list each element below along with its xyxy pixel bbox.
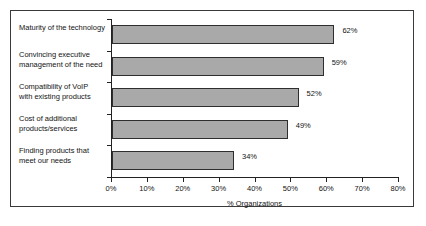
value-tick-label: 60% bbox=[319, 184, 334, 193]
category-label: Maturity of the technology bbox=[19, 23, 111, 33]
bar-value-label: 62% bbox=[342, 26, 357, 35]
value-tick bbox=[326, 177, 327, 182]
category-label-line: Finding products that bbox=[19, 146, 111, 156]
category-tick bbox=[107, 51, 112, 52]
bar-row: 49% bbox=[111, 114, 398, 146]
value-tick bbox=[290, 177, 291, 182]
bar-value-label: 59% bbox=[332, 58, 347, 67]
value-axis-title: % Organizations bbox=[111, 199, 398, 208]
bar-row: 34% bbox=[111, 145, 398, 177]
page-caption bbox=[12, 214, 312, 219]
category-tick bbox=[107, 19, 112, 20]
bar-value-label: 34% bbox=[242, 152, 257, 161]
bar[interactable] bbox=[112, 151, 234, 170]
bar-value-label: 52% bbox=[307, 89, 322, 98]
category-tick bbox=[107, 145, 112, 146]
value-tick-label: 70% bbox=[355, 184, 370, 193]
category-label: Convincing executive management of the n… bbox=[19, 50, 111, 69]
bar[interactable] bbox=[112, 57, 324, 76]
category-tick bbox=[107, 114, 112, 115]
value-tick-label: 40% bbox=[247, 184, 262, 193]
category-label-line: management of the need bbox=[19, 60, 111, 70]
bar-row: 62% bbox=[111, 19, 398, 51]
bar[interactable] bbox=[112, 120, 288, 139]
value-tick-label: 20% bbox=[175, 184, 190, 193]
category-label-line: Compatibility of VoIP bbox=[19, 82, 111, 92]
value-tick-label: 50% bbox=[283, 184, 298, 193]
plot-area: 62%59%52%49%34% 0%10%20%30%40%50%60%70%8… bbox=[111, 19, 398, 184]
value-tick bbox=[183, 177, 184, 182]
value-tick-label: 30% bbox=[211, 184, 226, 193]
category-tick bbox=[107, 177, 112, 178]
value-tick bbox=[255, 177, 256, 182]
bar-value-label: 49% bbox=[296, 121, 311, 130]
category-label: Finding products that meet our needs bbox=[19, 146, 111, 165]
bar-row: 52% bbox=[111, 82, 398, 114]
category-label-line: Cost of additional bbox=[19, 114, 111, 124]
value-tick-label: 0% bbox=[106, 184, 117, 193]
value-tick-label: 10% bbox=[139, 184, 154, 193]
value-tick bbox=[398, 177, 399, 182]
value-tick bbox=[147, 177, 148, 182]
bar[interactable] bbox=[112, 25, 334, 44]
category-label-line: meet our needs bbox=[19, 156, 111, 166]
category-axis-labels: Maturity of the technology Convincing ex… bbox=[19, 19, 111, 177]
bar[interactable] bbox=[112, 88, 299, 107]
category-label: Compatibility of VoIP with existing prod… bbox=[19, 82, 111, 101]
value-tick-label: 80% bbox=[390, 184, 405, 193]
category-label: Cost of additional products/services bbox=[19, 114, 111, 133]
category-label-line: Convincing executive bbox=[19, 50, 111, 60]
chart-frame: Maturity of the technology Convincing ex… bbox=[10, 10, 414, 207]
category-label-line: with existing products bbox=[19, 92, 111, 102]
value-tick bbox=[362, 177, 363, 182]
value-tick bbox=[219, 177, 220, 182]
bar-row: 59% bbox=[111, 51, 398, 83]
category-label-line: Maturity of the technology bbox=[19, 23, 111, 33]
category-tick bbox=[107, 82, 112, 83]
category-label-line: products/services bbox=[19, 124, 111, 134]
